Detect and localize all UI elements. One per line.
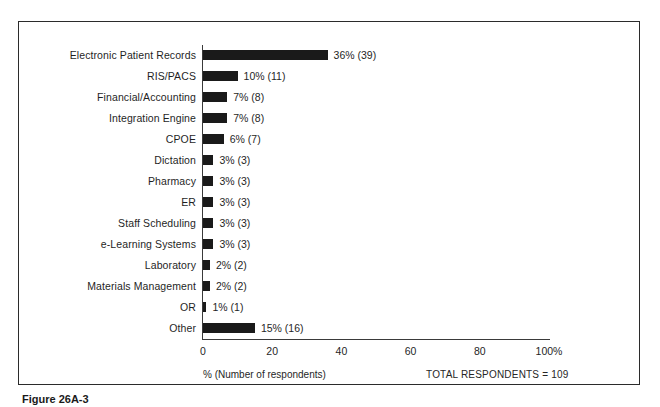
chart-row: Pharmacy3% (3): [19, 171, 639, 192]
category-label: Integration Engine: [109, 108, 196, 129]
bar: [203, 239, 213, 249]
bar: [203, 155, 213, 165]
x-axis-caption: % (Number of respondents): [203, 369, 326, 380]
x-tick-label: 60: [405, 343, 417, 359]
bar-value-label: 2% (2): [216, 276, 247, 297]
chart-rows: Electronic Patient Records36% (39)RIS/PA…: [19, 45, 639, 339]
bar: [203, 260, 210, 270]
bar-value-label: 1% (1): [212, 297, 243, 318]
chart-row: Electronic Patient Records36% (39): [19, 45, 639, 66]
bar: [203, 92, 227, 102]
category-label: Pharmacy: [148, 171, 196, 192]
bar-container: 3% (3): [203, 192, 639, 213]
bar: [203, 71, 238, 81]
x-tick-label: 0: [200, 343, 206, 359]
category-label: Dictation: [154, 150, 196, 171]
chart-row: e-Learning Systems3% (3): [19, 234, 639, 255]
bar-chart: Electronic Patient Records36% (39)RIS/PA…: [19, 22, 639, 384]
category-label: Financial/Accounting: [97, 87, 196, 108]
bar-value-label: 7% (8): [233, 87, 264, 108]
category-label: e-Learning Systems: [101, 234, 196, 255]
chart-row: Financial/Accounting7% (8): [19, 87, 639, 108]
x-axis-tick-labels: 020406080100%: [19, 343, 639, 359]
bar-container: 6% (7): [203, 129, 639, 150]
chart-row: ER3% (3): [19, 192, 639, 213]
chart-row: Dictation3% (3): [19, 150, 639, 171]
category-label: RIS/PACS: [147, 66, 196, 87]
bar-container: 2% (2): [203, 255, 639, 276]
bar-value-label: 6% (7): [230, 129, 261, 150]
figure-frame: Electronic Patient Records36% (39)RIS/PA…: [18, 21, 640, 385]
bar-container: 7% (8): [203, 87, 639, 108]
bar: [203, 218, 213, 228]
x-tick-label: 20: [266, 343, 278, 359]
bar-container: 3% (3): [203, 234, 639, 255]
category-label: Laboratory: [145, 255, 196, 276]
bar: [203, 134, 224, 144]
bar-value-label: 3% (3): [219, 171, 250, 192]
bar: [203, 197, 213, 207]
bar: [203, 50, 328, 60]
y-axis-line: [202, 45, 203, 339]
figure-caption: Figure 26A-3: [22, 393, 89, 405]
bar-container: 36% (39): [203, 45, 639, 66]
chart-row: RIS/PACS10% (11): [19, 66, 639, 87]
bar-value-label: 10% (11): [244, 66, 286, 87]
category-label: OR: [180, 297, 196, 318]
bar-container: 3% (3): [203, 171, 639, 192]
bar-value-label: 36% (39): [334, 45, 377, 66]
bar-value-label: 3% (3): [219, 150, 250, 171]
bar: [203, 113, 227, 123]
bar-container: 10% (11): [203, 66, 639, 87]
chart-row: Materials Management2% (2): [19, 276, 639, 297]
category-label: Electronic Patient Records: [70, 45, 196, 66]
category-label: Other: [169, 318, 196, 339]
bar: [203, 176, 213, 186]
x-axis-line: [202, 339, 550, 340]
total-respondents-note: TOTAL RESPONDENTS = 109: [426, 369, 569, 380]
bar-value-label: 3% (3): [219, 213, 250, 234]
chart-row: OR1% (1): [19, 297, 639, 318]
x-tick-label: 100%: [536, 343, 563, 359]
bar-container: 7% (8): [203, 108, 639, 129]
bar-container: 3% (3): [203, 213, 639, 234]
x-tick-label: 80: [474, 343, 486, 359]
bar-container: 1% (1): [203, 297, 639, 318]
bar-container: 3% (3): [203, 150, 639, 171]
category-label: Materials Management: [87, 276, 196, 297]
category-label: Staff Scheduling: [118, 213, 196, 234]
chart-row: CPOE6% (7): [19, 129, 639, 150]
bar-value-label: 3% (3): [219, 234, 250, 255]
bar-value-label: 2% (2): [216, 255, 247, 276]
category-label: CPOE: [166, 129, 196, 150]
category-label: ER: [181, 192, 196, 213]
bar-container: 15% (16): [203, 318, 639, 339]
x-tick-label: 40: [336, 343, 348, 359]
chart-row: Other15% (16): [19, 318, 639, 339]
bar: [203, 302, 206, 312]
bar-value-label: 15% (16): [261, 318, 304, 339]
chart-row: Laboratory2% (2): [19, 255, 639, 276]
bar-value-label: 3% (3): [219, 192, 250, 213]
bar-value-label: 7% (8): [233, 108, 264, 129]
bar: [203, 281, 210, 291]
chart-row: Integration Engine7% (8): [19, 108, 639, 129]
bar-container: 2% (2): [203, 276, 639, 297]
bar: [203, 323, 255, 333]
chart-row: Staff Scheduling3% (3): [19, 213, 639, 234]
